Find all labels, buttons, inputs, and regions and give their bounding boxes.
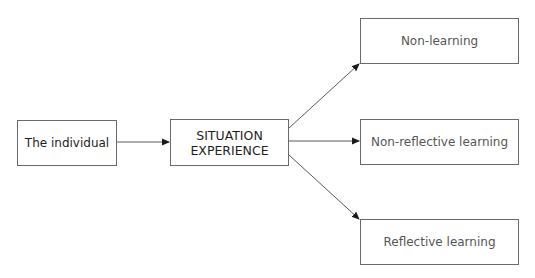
node-reflective-learning: Reflective learning [360,219,519,265]
node-label: Reflective learning [383,235,495,250]
node-non-reflective-learning: Non-reflective learning [360,119,519,165]
arrow-situation-to-non-learning [289,64,359,128]
node-label: The individual [25,136,109,151]
node-label: Non-learning [401,34,478,49]
arrow-situation-to-reflective-learning [289,155,359,219]
node-label: Non-reflective learning [371,135,508,150]
node-the-individual: The individual [17,120,117,166]
node-label-line-1: SITUATION [196,128,263,143]
node-non-learning: Non-learning [360,18,519,64]
node-label-line-2: EXPERIENCE [190,143,268,158]
node-situation-experience: SITUATION EXPERIENCE [170,119,289,166]
node-label: SITUATION EXPERIENCE [190,128,268,158]
